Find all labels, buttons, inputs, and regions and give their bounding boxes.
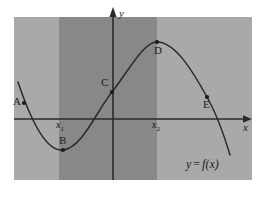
function-graph-figure: A B C D E x1 x2 y x y=f(x) bbox=[0, 0, 267, 197]
point-marker-B bbox=[61, 148, 65, 152]
y-axis-arrow bbox=[109, 7, 116, 17]
point-label-D: D bbox=[154, 45, 162, 56]
point-marker-A bbox=[22, 101, 26, 105]
equation-equals: = bbox=[191, 157, 202, 171]
point-label-E: E bbox=[203, 99, 210, 110]
point-label-C: C bbox=[101, 77, 108, 88]
tick-label-x1: x1 bbox=[56, 120, 64, 133]
equation-fx: f(x) bbox=[202, 157, 219, 171]
point-marker-C bbox=[110, 90, 114, 94]
function-equation-label: y=f(x) bbox=[186, 158, 219, 170]
tick-label-x2: x2 bbox=[152, 120, 160, 133]
graph-canvas bbox=[0, 0, 267, 197]
y-axis-label: y bbox=[119, 8, 124, 19]
point-label-A: A bbox=[13, 96, 21, 107]
x-axis-label: x bbox=[243, 122, 248, 133]
point-label-B: B bbox=[59, 135, 66, 146]
